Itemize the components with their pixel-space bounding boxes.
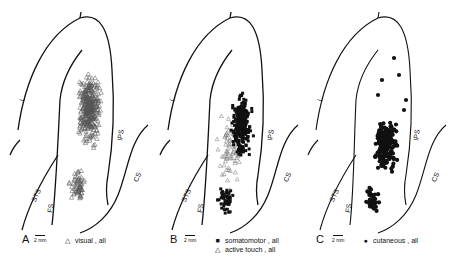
legend-item-visual: △ visual , all xyxy=(64,236,106,245)
legend-item-somatomotor: ■ somatomotor , all xyxy=(214,236,279,245)
legend-label: visual , all xyxy=(75,236,106,245)
legend-label: somatomotor , all xyxy=(225,236,279,245)
legend-label: cutaneous , all xyxy=(373,236,418,245)
scale-bar: 2 mm xyxy=(34,235,47,243)
legend-item-active-touch: △ active touch , all xyxy=(214,245,279,254)
panel-c: L IPS STS FS CS C 2 mm ● cutaneous , all xyxy=(298,0,451,266)
scale-bar: 2 mm xyxy=(184,235,197,243)
cutaneous-points xyxy=(364,56,408,213)
panel-letter-a: A xyxy=(22,233,29,245)
filled-circle-icon: ● xyxy=(362,236,369,245)
fs-contour xyxy=(52,50,82,225)
panel-letter-c: C xyxy=(316,233,324,245)
panel-letter-b: B xyxy=(170,233,177,245)
scale-label: 2 mm xyxy=(184,237,197,243)
scale-bar: 2 mm xyxy=(332,235,345,243)
panel-a-brain-map xyxy=(0,0,153,266)
legend: △ visual , all xyxy=(64,236,106,245)
scale-label: 2 mm xyxy=(332,237,345,243)
open-triangle-icon: △ xyxy=(64,236,71,245)
legend: ■ somatomotor , all △ active touch , all xyxy=(214,236,279,254)
open-triangle-icon: △ xyxy=(214,245,221,254)
legend: ● cutaneous , all xyxy=(362,236,418,245)
legend-label: active touch , all xyxy=(225,245,275,254)
panel-a: L IPS STS FS CS A 2 mm △ visual , all xyxy=(0,0,153,266)
panel-c-brain-map xyxy=(298,0,458,266)
filled-square-icon: ■ xyxy=(214,236,221,245)
panel-b: L IPS STS FS CS B 2 mm ■ somatomotor , a… xyxy=(150,0,303,266)
panel-b-brain-map xyxy=(150,0,303,266)
visual-points xyxy=(67,72,103,200)
legend-item-cutaneous: ● cutaneous , all xyxy=(362,236,418,245)
scale-label: 2 mm xyxy=(34,237,47,243)
